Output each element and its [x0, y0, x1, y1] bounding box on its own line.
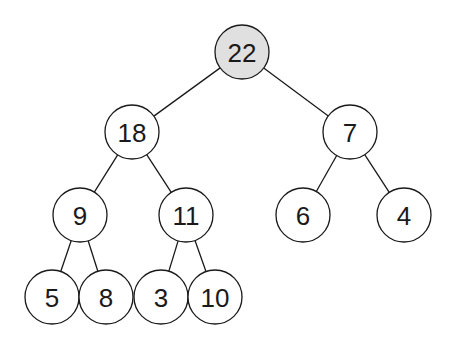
tree-nodes: 221879116458310: [25, 25, 431, 324]
node-label: 4: [397, 201, 411, 231]
tree-edge-22-18: [154, 68, 220, 116]
node-label: 7: [343, 118, 357, 148]
tree-edge-9-5: [61, 241, 72, 272]
node-label: 6: [296, 201, 310, 231]
tree-edge-7-6: [316, 155, 336, 191]
tree-node-8: 8: [79, 270, 133, 324]
tree-edge-18-9: [94, 155, 117, 192]
node-label: 22: [228, 38, 257, 68]
tree-edge-11-10: [195, 240, 206, 271]
tree-node-22: 22: [215, 25, 269, 79]
node-label: 5: [45, 283, 59, 313]
tree-node-11: 11: [159, 188, 213, 242]
tree-node-18: 18: [105, 105, 159, 159]
node-label: 8: [99, 283, 113, 313]
tree-edge-11-3: [169, 241, 178, 271]
tree-edges: [61, 68, 390, 272]
tree-node-6: 6: [276, 188, 330, 242]
tree-diagram: 221879116458310: [0, 0, 456, 350]
tree-node-10: 10: [188, 270, 242, 324]
node-label: 9: [73, 201, 87, 231]
tree-node-7: 7: [323, 105, 377, 159]
node-label: 18: [118, 118, 147, 148]
tree-edge-18-11: [147, 155, 172, 193]
node-label: 3: [154, 283, 168, 313]
tree-node-9: 9: [53, 188, 107, 242]
node-label: 11: [173, 201, 200, 231]
tree-edge-9-8: [88, 241, 98, 272]
tree-edge-7-4: [365, 155, 390, 193]
tree-edge-22-7: [264, 68, 329, 116]
tree-node-3: 3: [134, 270, 188, 324]
tree-node-5: 5: [25, 270, 79, 324]
tree-node-4: 4: [377, 188, 431, 242]
node-label: 10: [201, 283, 230, 313]
